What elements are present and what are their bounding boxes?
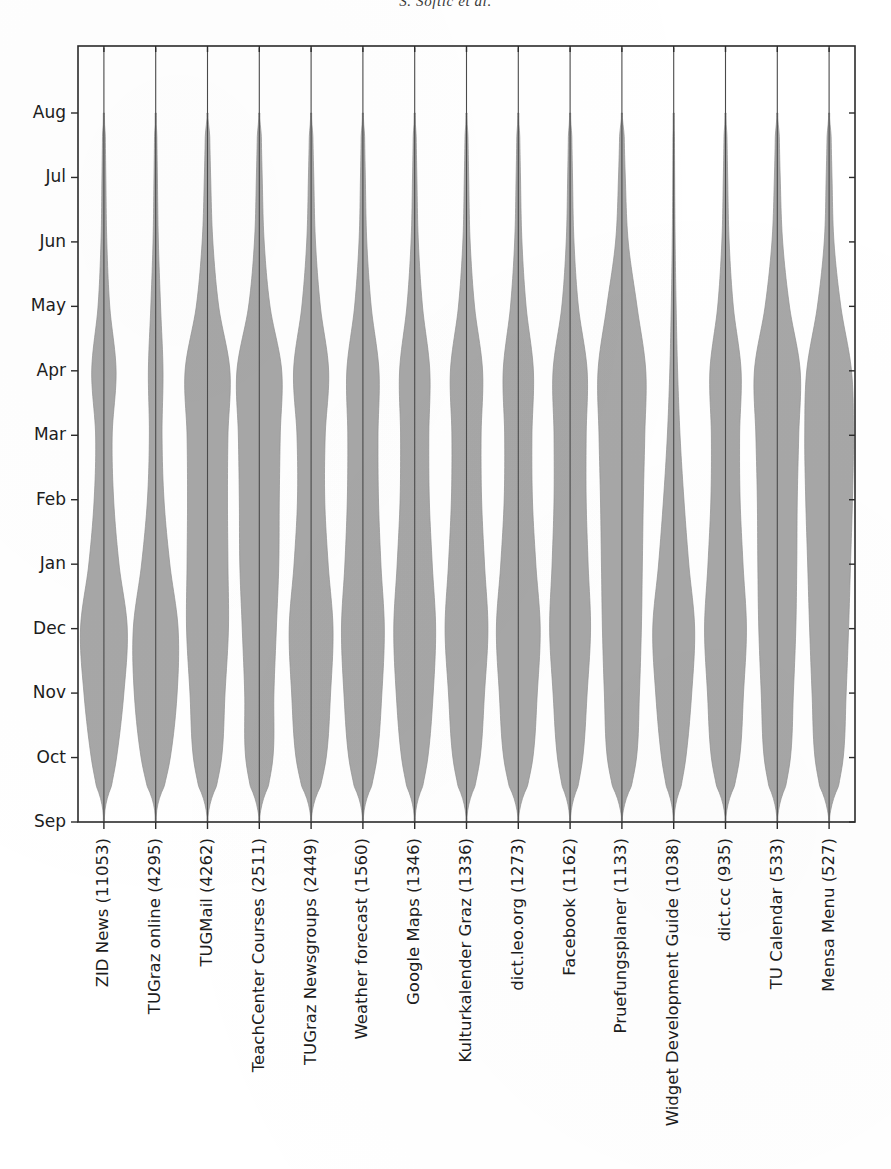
y-axis-tick-label: Oct: [37, 747, 67, 767]
y-axis-tick-label: May: [31, 295, 66, 315]
x-axis-tick-label: TeachCenter Courses (2511): [249, 838, 268, 1073]
y-axis-tick-label: Feb: [36, 489, 66, 509]
x-axis-tick-label: TUGMail (4262): [197, 838, 216, 968]
violin-chart: AugJulJunMayAprMarFebJanDecNovOctSep ZID…: [0, 0, 891, 1169]
x-axis-tick-label: TUGraz Newsgroups (2449): [301, 838, 320, 1066]
y-axis-labels: AugJulJunMayAprMarFebJanDecNovOctSep: [31, 102, 66, 831]
y-axis-tick-label: Dec: [33, 618, 66, 638]
x-axis-tick-label: Kulturkalender Graz (1336): [456, 838, 475, 1062]
x-axis-tick-label: TU Calendar (533): [767, 838, 786, 990]
x-axis-tick-label: ZID News (11053): [93, 838, 112, 987]
y-axis-tick-label: Jun: [38, 231, 66, 251]
x-axis-tick-label: Google Maps (1346): [404, 838, 423, 1005]
y-axis-tick-label: Mar: [34, 424, 66, 444]
y-axis-tick-label: Jan: [39, 553, 66, 573]
violin-plot-figure: AugJulJunMayAprMarFebJanDecNovOctSep ZID…: [0, 0, 891, 1169]
x-axis-tick-label: Weather forecast (1560): [352, 838, 371, 1040]
y-axis-tick-label: Sep: [34, 811, 66, 831]
x-axis-tick-label: Facebook (1162): [560, 838, 579, 976]
y-axis-tick-label: Nov: [33, 682, 66, 702]
y-axis-tick-label: Aug: [33, 102, 66, 122]
x-axis-tick-label: dict.cc (935): [715, 838, 734, 942]
x-axis-tick-label: Pruefungsplaner (1133): [611, 838, 630, 1034]
x-axis-tick-label: Widget Development Guide (1038): [663, 838, 682, 1126]
y-axis-tick-label: Apr: [37, 360, 66, 380]
x-axis-tick-label: dict.leo.org (1273): [508, 838, 527, 991]
x-axis-labels: ZID News (11053)TUGraz online (4295)TUGM…: [93, 838, 837, 1126]
page-canvas: S. Softic et al. AugJulJunMayAprMarFebJa…: [0, 0, 891, 1169]
x-axis-tick-label: Mensa Menu (527): [819, 838, 838, 992]
y-axis-tick-label: Jul: [44, 166, 66, 186]
x-axis-tick-label: TUGraz online (4295): [145, 838, 164, 1015]
